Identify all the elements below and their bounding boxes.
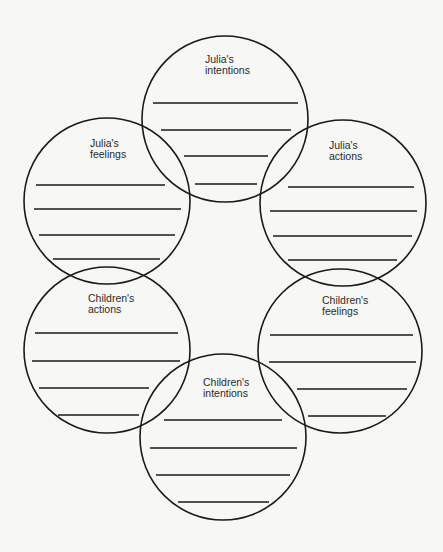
label-julia-intentions: Julia's intentions: [205, 54, 250, 76]
label-children-actions: Children's actions: [88, 293, 134, 315]
label-julia-actions: Julia's actions: [329, 140, 362, 162]
label-line2: feelings: [322, 306, 368, 317]
label-line2: intentions: [205, 65, 250, 76]
label-line2: intentions: [203, 388, 249, 399]
label-children-feelings: Children's feelings: [322, 295, 368, 317]
label-line2: actions: [329, 151, 362, 162]
label-line2: actions: [88, 304, 134, 315]
label-line2: feelings: [90, 149, 126, 160]
circles-layer: [0, 0, 443, 552]
label-children-intentions: Children's intentions: [203, 377, 249, 399]
label-julia-feelings: Julia's feelings: [90, 138, 126, 160]
worksheet-diagram: Julia's intentions Julia's feelings Juli…: [0, 0, 443, 552]
